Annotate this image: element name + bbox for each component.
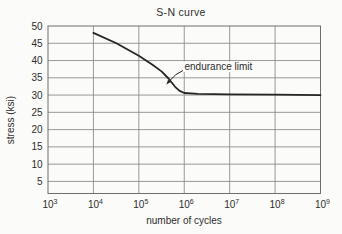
sn-curve-figure: 5045403530252015105103104105106107108109… (0, 0, 342, 234)
x-tick-label-10e7: 107 (224, 198, 239, 210)
y-tick-label-50: 50 (31, 21, 43, 32)
y-tick-label-25: 25 (31, 107, 43, 118)
chart-title: S-N curve (156, 6, 205, 18)
x-tick-label-10e8: 108 (270, 198, 285, 210)
sn-curve-chart: 5045403530252015105103104105106107108109… (0, 0, 342, 234)
x-tick-label-10e4: 104 (88, 198, 103, 210)
y-axis-label: stress (ksi) (5, 96, 16, 144)
y-tick-label-15: 15 (31, 141, 43, 152)
y-tick-label-30: 30 (31, 90, 43, 101)
annotation-arrow (169, 71, 183, 82)
y-tick-label-35: 35 (31, 72, 43, 83)
y-tick-label-45: 45 (31, 38, 43, 49)
x-tick-label-10e5: 105 (133, 198, 148, 210)
x-tick-label-10e9: 109 (315, 198, 330, 210)
y-tick-label-10: 10 (31, 159, 43, 170)
y-tick-label-5: 5 (37, 176, 43, 187)
y-tick-label-20: 20 (31, 124, 43, 135)
y-tick-label-40: 40 (31, 55, 43, 66)
x-axis-label: number of cycles (146, 215, 222, 226)
endurance-limit-annotation: endurance limit (185, 61, 253, 72)
grid-layer (48, 26, 321, 194)
x-tick-label-10e6: 106 (179, 198, 194, 210)
x-tick-label-10e3: 103 (42, 198, 57, 210)
